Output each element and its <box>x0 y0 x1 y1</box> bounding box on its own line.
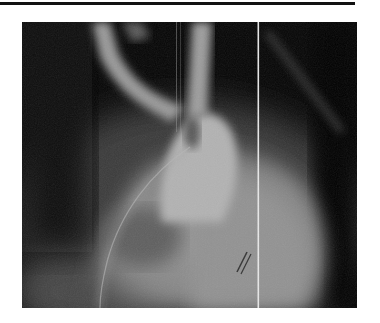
top-rule <box>0 2 355 5</box>
angiogram-image <box>22 22 357 308</box>
angiogram-graphic <box>22 22 357 308</box>
